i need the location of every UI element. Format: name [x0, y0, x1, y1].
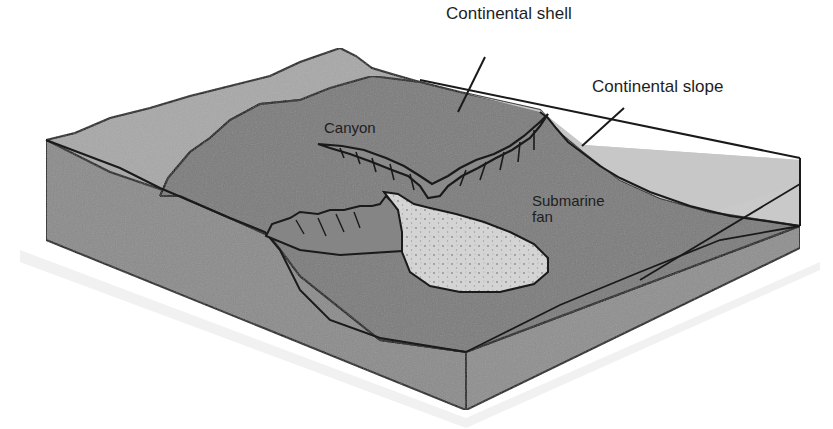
submarine-fan-label: Submarine fan	[532, 193, 605, 225]
continental-shelf-label: Continental shell	[446, 5, 572, 23]
submarine-fan-label-line1: Submarine	[532, 193, 605, 209]
submarine-fan-label-line2: fan	[532, 209, 605, 225]
block-diagram-graphic	[0, 0, 833, 429]
continental-margin-diagram: Continental shell Continental slope Cany…	[0, 0, 833, 429]
canyon-label: Canyon	[324, 120, 376, 136]
continental-slope-label: Continental slope	[592, 78, 723, 96]
